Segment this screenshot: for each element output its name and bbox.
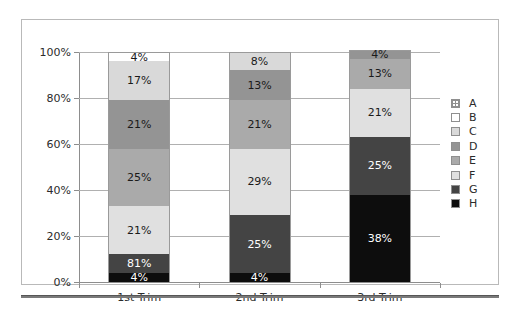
legend-label: G	[469, 184, 478, 195]
bar-segment-label: 21%	[247, 119, 271, 130]
bar-segment[interactable]: 21%	[229, 100, 291, 148]
chart-frame: 0%20%40%60%80%100% 1st Trim2nd Trim3rd T…	[21, 19, 499, 285]
bar-segment-label: 4%	[251, 272, 268, 283]
bar-segment[interactable]: 4%	[108, 52, 170, 61]
legend-swatch-f-icon	[451, 171, 460, 180]
bar-segment-label: 25%	[368, 160, 392, 171]
y-axis-tick	[74, 190, 79, 191]
plot-area: 0%20%40%60%80%100% 1st Trim2nd Trim3rd T…	[79, 52, 440, 283]
legend-item-g[interactable]: G	[451, 182, 497, 196]
bar-segment[interactable]: 21%	[349, 89, 411, 137]
y-axis-label: 0%	[54, 277, 71, 288]
bar-segment-label: 8%	[251, 56, 268, 67]
bar-segment[interactable]: 4%	[229, 273, 291, 282]
bar-segment-label: 13%	[368, 68, 392, 79]
y-axis-label: 80%	[47, 93, 71, 104]
bar-segment[interactable]: 8%	[229, 52, 291, 70]
y-axis-tick	[74, 144, 79, 145]
legend-label: D	[469, 141, 477, 152]
legend-item-a[interactable]: A	[451, 96, 497, 110]
legend-item-c[interactable]: C	[451, 125, 497, 139]
y-axis-tick	[74, 98, 79, 99]
bar-segment-label: 21%	[127, 225, 151, 236]
legend-item-b[interactable]: B	[451, 110, 497, 124]
stacked-bar[interactable]: 4%17%21%25%21%81%4%	[108, 52, 170, 282]
y-axis-label: 100%	[40, 47, 71, 58]
legend-label: C	[469, 126, 477, 137]
legend-swatch-e-icon	[451, 156, 460, 165]
x-axis-tick	[320, 283, 321, 288]
x-axis-tick	[440, 283, 441, 288]
bar-segment[interactable]: 38%	[349, 195, 411, 282]
bar-segment[interactable]: 25%	[108, 149, 170, 207]
legend-swatch-a-icon	[451, 99, 460, 108]
stacked-bar[interactable]: 4%13%21%25%38%	[349, 50, 411, 282]
x-axis-tick	[79, 283, 80, 288]
bar-segment[interactable]: 13%	[349, 59, 411, 89]
bar-segment[interactable]: 25%	[229, 215, 291, 273]
legend: ABCDEFGH	[451, 96, 497, 211]
y-axis-line	[79, 52, 80, 283]
legend-item-e[interactable]: E	[451, 154, 497, 168]
bar-segment-label: 4%	[131, 272, 148, 283]
legend-label: A	[469, 98, 477, 109]
bar-segment[interactable]: 81%	[108, 254, 170, 272]
bar-segment-label: 29%	[247, 176, 271, 187]
bar-segment-label: 17%	[127, 75, 151, 86]
bar-segment-label: 21%	[368, 107, 392, 118]
y-axis-tick	[74, 52, 79, 53]
y-axis-tick	[74, 236, 79, 237]
bar-segment[interactable]: 17%	[108, 61, 170, 100]
legend-label: F	[469, 170, 475, 181]
bar-segment-label: 38%	[368, 233, 392, 244]
legend-item-d[interactable]: D	[451, 139, 497, 153]
legend-swatch-g-icon	[451, 185, 460, 194]
legend-swatch-d-icon	[451, 142, 460, 151]
bar-segment[interactable]: 29%	[229, 149, 291, 216]
legend-label: E	[469, 155, 476, 166]
horizontal-rule	[21, 295, 499, 298]
bar-segment-label: 25%	[127, 172, 151, 183]
bar-segment[interactable]: 13%	[229, 70, 291, 100]
bar-segment-label: 81%	[127, 258, 151, 269]
legend-swatch-c-icon	[451, 127, 460, 136]
bar-segment[interactable]: 25%	[349, 137, 411, 195]
y-axis-label: 60%	[47, 139, 71, 150]
legend-label: B	[469, 112, 477, 123]
legend-swatch-h-icon	[451, 199, 460, 208]
bar-segment[interactable]: 4%	[108, 273, 170, 282]
stacked-bar[interactable]: 8%13%21%29%25%4%	[229, 52, 291, 282]
x-axis-tick	[199, 283, 200, 288]
y-axis-label: 20%	[47, 231, 71, 242]
bar-segment[interactable]: 21%	[108, 100, 170, 148]
legend-swatch-b-icon	[451, 113, 460, 122]
bar-segment-label: 21%	[127, 119, 151, 130]
y-axis-label: 40%	[47, 185, 71, 196]
bar-segment[interactable]: 4%	[349, 50, 411, 59]
legend-label: H	[469, 198, 477, 209]
legend-item-h[interactable]: H	[451, 197, 497, 211]
bar-segment[interactable]: 21%	[108, 206, 170, 254]
legend-item-f[interactable]: F	[451, 168, 497, 182]
bar-segment-label: 25%	[247, 239, 271, 250]
chart-page: 0%20%40%60%80%100% 1st Trim2nd Trim3rd T…	[0, 0, 521, 310]
bar-segment-label: 13%	[247, 80, 271, 91]
